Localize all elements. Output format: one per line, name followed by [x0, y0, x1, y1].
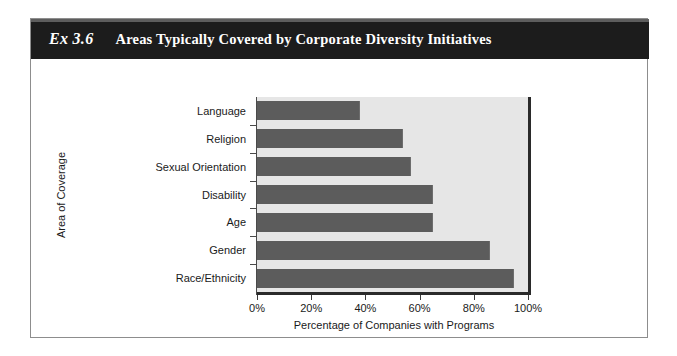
x-axis-tick-label: 20%	[300, 302, 322, 314]
y-axis-tick-mark	[250, 208, 256, 209]
bar	[257, 157, 411, 176]
y-axis-tick-labels: LanguageReligionSexual OrientationDisabi…	[106, 97, 246, 292]
y-axis-tick-label: Religion	[106, 133, 246, 144]
y-axis-tick-mark	[250, 236, 256, 237]
bar	[257, 269, 514, 288]
figure-frame: Ex 3.6 Areas Typically Covered by Corpor…	[30, 18, 648, 338]
x-axis-tick-mark	[474, 295, 475, 300]
y-axis-title: Area of Coverage	[55, 105, 67, 285]
y-axis-tick-mark	[250, 181, 256, 182]
x-axis-tick-mark	[365, 295, 366, 300]
bar	[257, 129, 403, 148]
x-axis-tick-label: 0%	[249, 302, 265, 314]
x-axis-title: Percentage of Companies with Programs	[257, 319, 531, 331]
bar	[257, 101, 360, 120]
x-axis-tick-mark	[257, 295, 258, 300]
y-axis-tick-mark	[250, 125, 256, 126]
x-axis-tick-label: 100%	[514, 302, 542, 314]
plot-area	[257, 97, 531, 295]
y-axis-tick-mark	[250, 264, 256, 265]
x-axis-tick-label: 80%	[463, 302, 485, 314]
bar-chart: Area of Coverage LanguageReligionSexual …	[31, 59, 649, 338]
exhibit-title-label: Areas Typically Covered by Corporate Div…	[115, 31, 491, 48]
bar	[257, 213, 433, 232]
y-axis-tick-label: Sexual Orientation	[106, 161, 246, 172]
y-axis-tick-label: Age	[106, 217, 246, 228]
bar	[257, 185, 433, 204]
x-axis-tick-label: 60%	[409, 302, 431, 314]
y-axis-tick-mark	[250, 153, 256, 154]
y-axis-tick-label: Disability	[106, 189, 246, 200]
y-axis-tick-label: Language	[106, 105, 246, 116]
x-axis-tick-mark	[420, 295, 421, 300]
x-axis-tick-mark	[311, 295, 312, 300]
bar	[257, 241, 490, 260]
y-axis-tick-label: Gender	[106, 245, 246, 256]
y-axis-tick-label: Race/Ethnicity	[106, 273, 246, 284]
figure-header-bar: Ex 3.6 Areas Typically Covered by Corpor…	[31, 19, 649, 59]
exhibit-number-label: Ex 3.6	[49, 30, 93, 48]
x-axis-tick-mark	[528, 295, 529, 300]
x-axis-tick-label: 40%	[354, 302, 376, 314]
